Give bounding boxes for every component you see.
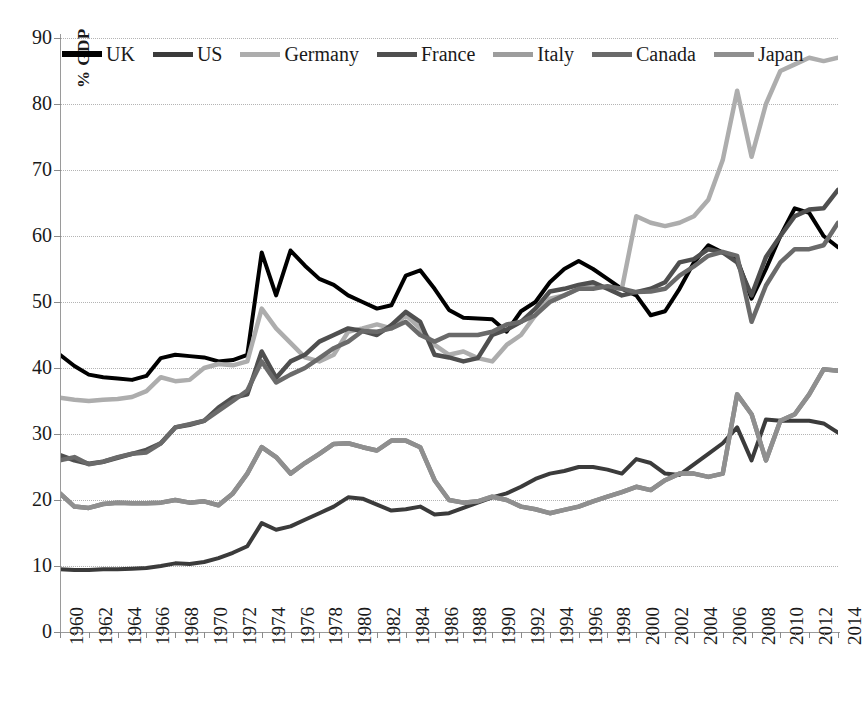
- x-tick-label: 1966: [153, 607, 172, 645]
- line-chart: 0102030405060708090 % GDP 19601962196419…: [0, 0, 866, 714]
- x-tick-mark-minor: [478, 632, 479, 636]
- legend-item-canada[interactable]: Canada: [592, 44, 696, 64]
- legend-swatch-japan: [714, 52, 754, 57]
- x-tick-mark-minor: [218, 632, 219, 636]
- x-tick-mark: [146, 632, 147, 638]
- x-tick-label: 1960: [67, 607, 86, 645]
- legend-label: France: [421, 44, 475, 64]
- x-tick-mark: [492, 632, 493, 638]
- x-tick-mark: [636, 632, 637, 638]
- x-tick-label: 2014: [845, 607, 864, 645]
- y-tick-label: 90: [32, 27, 52, 47]
- x-tick-label: 2012: [816, 607, 835, 645]
- x-tick-label: 1968: [182, 607, 201, 645]
- x-tick-label: 1976: [298, 607, 317, 645]
- legend-label: Canada: [636, 44, 696, 64]
- x-tick-mark: [780, 632, 781, 638]
- x-tick-mark: [175, 632, 176, 638]
- x-tick-mark: [435, 632, 436, 638]
- series-line-france: [60, 190, 838, 464]
- x-tick-mark: [579, 632, 580, 638]
- series-line-canada: [60, 223, 838, 465]
- x-tick-mark: [694, 632, 695, 638]
- legend-label: Japan: [758, 44, 804, 64]
- series-line-italy: [60, 369, 838, 513]
- y-tick-label: 0: [42, 621, 52, 641]
- x-tick-label: 1980: [355, 607, 374, 645]
- x-tick-label: 2010: [787, 607, 806, 645]
- x-tick-label: 1996: [586, 607, 605, 645]
- x-tick-mark: [377, 632, 378, 638]
- legend-label: Germany: [284, 44, 358, 64]
- x-tick-mark-minor: [564, 632, 565, 636]
- x-tick-mark-minor: [247, 632, 248, 636]
- x-tick-mark-minor: [190, 632, 191, 636]
- legend-item-japan[interactable]: Japan: [714, 44, 804, 64]
- x-tick-label: 1982: [384, 607, 403, 645]
- y-tick-mark: [54, 104, 61, 105]
- x-tick-mark-minor: [334, 632, 335, 636]
- legend-item-france[interactable]: France: [377, 44, 475, 64]
- series-line-japan: [60, 369, 838, 513]
- x-tick-mark-minor: [507, 632, 508, 636]
- legend-item-italy[interactable]: Italy: [493, 44, 574, 64]
- x-tick-label: 2002: [672, 607, 691, 645]
- y-tick-mark: [54, 368, 61, 369]
- legend-label: UK: [106, 44, 135, 64]
- x-tick-label: 1972: [240, 607, 259, 645]
- x-tick-label: 2006: [730, 607, 749, 645]
- y-tick-mark: [54, 302, 61, 303]
- x-tick-mark: [521, 632, 522, 638]
- x-tick-label: 1964: [125, 607, 144, 645]
- legend-label: US: [197, 44, 223, 64]
- legend-item-uk[interactable]: UK: [62, 44, 135, 64]
- x-tick-label: 1978: [326, 607, 345, 645]
- y-axis-ticks: 0102030405060708090: [0, 0, 52, 714]
- y-tick-mark: [54, 434, 61, 435]
- plot-area: [60, 38, 838, 632]
- x-tick-mark: [118, 632, 119, 638]
- x-tick-label: 1990: [499, 607, 518, 645]
- x-tick-label: 1986: [442, 607, 461, 645]
- x-tick-mark-minor: [305, 632, 306, 636]
- y-tick-mark: [54, 500, 61, 501]
- legend-item-germany[interactable]: Germany: [240, 44, 358, 64]
- x-tick-mark: [665, 632, 666, 638]
- x-tick-mark: [809, 632, 810, 638]
- y-tick-label: 10: [32, 555, 52, 575]
- x-tick-label: 2008: [759, 607, 778, 645]
- series-line-us: [60, 419, 838, 569]
- y-tick-label: 20: [32, 489, 52, 509]
- x-tick-mark-minor: [766, 632, 767, 636]
- x-tick-mark-minor: [363, 632, 364, 636]
- legend-label: Italy: [537, 44, 574, 64]
- series-lines: [60, 38, 838, 632]
- x-tick-mark-minor: [708, 632, 709, 636]
- x-tick-label: 2004: [701, 607, 720, 645]
- x-tick-mark: [89, 632, 90, 638]
- x-tick-mark-minor: [795, 632, 796, 636]
- x-tick-mark: [463, 632, 464, 638]
- y-tick-mark: [54, 236, 61, 237]
- y-tick-mark: [54, 38, 61, 39]
- x-tick-mark: [348, 632, 349, 638]
- x-tick-label: 2000: [643, 607, 662, 645]
- legend-item-us[interactable]: US: [153, 44, 223, 64]
- series-line-germany: [60, 58, 838, 401]
- x-tick-mark: [550, 632, 551, 638]
- x-tick-mark-minor: [449, 632, 450, 636]
- x-tick-mark: [319, 632, 320, 638]
- x-tick-mark: [723, 632, 724, 638]
- chart-legend: UKUSGermanyFranceItalyCanadaJapan: [62, 42, 822, 66]
- y-tick-label: 30: [32, 423, 52, 443]
- y-axis-line: [60, 34, 61, 634]
- x-tick-mark-minor: [420, 632, 421, 636]
- y-tick-mark: [54, 170, 61, 171]
- x-tick-mark-minor: [737, 632, 738, 636]
- x-tick-label: 1970: [211, 607, 230, 645]
- x-tick-mark-minor: [593, 632, 594, 636]
- legend-swatch-uk: [62, 51, 102, 57]
- x-tick-mark-minor: [103, 632, 104, 636]
- y-tick-label: 60: [32, 225, 52, 245]
- x-tick-label: 1974: [269, 607, 288, 645]
